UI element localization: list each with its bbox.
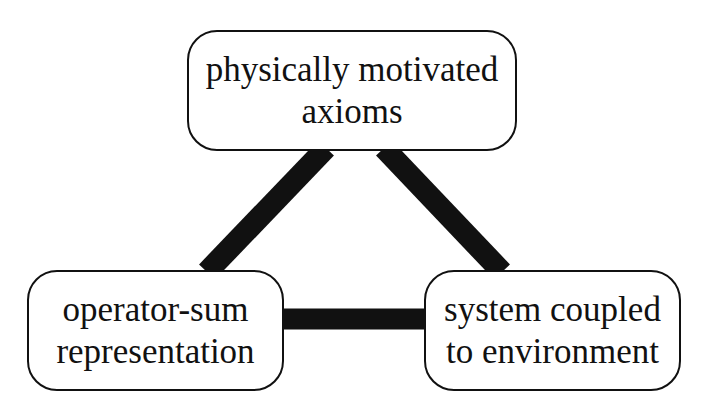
node-label-line: to environment: [446, 331, 659, 373]
node-label-line: axioms: [301, 91, 402, 133]
equivalence-triangle-diagram: physically motivated axioms operator-sum…: [0, 0, 709, 415]
node-system-coupled-to-environment: system coupled to environment: [424, 270, 681, 391]
node-label-line: system coupled: [444, 289, 661, 331]
edge-axioms-operator-sum: [207, 148, 326, 272]
node-physically-motivated-axioms: physically motivated axioms: [187, 30, 517, 151]
node-label-line: representation: [56, 331, 254, 373]
node-operator-sum-representation: operator-sum representation: [27, 270, 284, 391]
edge-axioms-environment: [384, 148, 502, 272]
node-label-line: operator-sum: [63, 289, 249, 331]
node-label-line: physically motivated: [206, 49, 499, 91]
